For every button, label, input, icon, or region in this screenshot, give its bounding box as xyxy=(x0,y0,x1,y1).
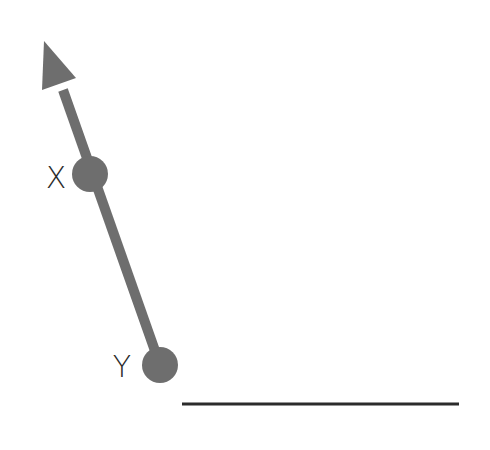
point-x xyxy=(72,156,108,192)
arrowhead-icon xyxy=(42,41,76,90)
point-y xyxy=(142,347,178,383)
diagram-canvas: X Y xyxy=(0,0,490,450)
vector-shaft xyxy=(63,90,160,365)
point-x-label: X xyxy=(46,163,67,193)
point-y-label: Y xyxy=(113,352,131,382)
diagram-svg xyxy=(0,0,490,450)
